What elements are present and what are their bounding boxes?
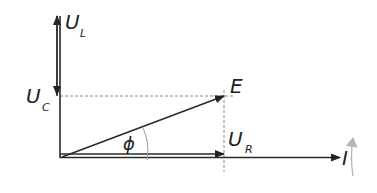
phasor-diagram: U L U C E U R I ϕ [0,0,377,193]
phi-arc [143,128,148,160]
rotation-arrow-icon [352,138,354,176]
label-uc-sub: C [42,101,50,114]
label-ul-sub: L [80,27,86,40]
label-phi: ϕ [123,133,135,154]
e-vector [62,96,224,157]
label-ur: U [228,127,243,151]
label-uc: U [26,84,41,108]
label-ur-sub: R [245,143,253,156]
label-i: I [342,146,348,170]
label-ul: U [65,10,80,34]
label-e: E [230,74,243,98]
